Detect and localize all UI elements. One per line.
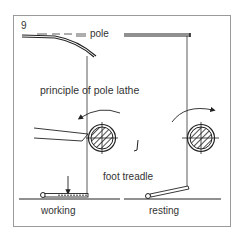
straight-pole <box>124 33 190 37</box>
pole-lathe-diagram <box>0 0 244 240</box>
figure-number: 9 <box>21 21 27 31</box>
rotation-arrow-right <box>172 109 213 123</box>
rotation-arrow-left <box>80 110 120 118</box>
left-workpiece <box>86 122 118 154</box>
bent-pole <box>22 34 96 57</box>
pole-label: pole <box>90 29 109 39</box>
working-label: working <box>41 206 75 216</box>
foot-treadle-label: foot treadle <box>103 172 153 182</box>
small-hook-mark <box>134 140 138 151</box>
figure-title: principle of pole lathe <box>40 85 139 96</box>
right-treadle <box>146 186 190 199</box>
left-treadle <box>41 193 89 198</box>
cutting-tool <box>34 128 88 141</box>
resting-label: resting <box>149 206 179 216</box>
right-workpiece <box>182 122 219 154</box>
